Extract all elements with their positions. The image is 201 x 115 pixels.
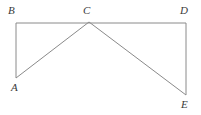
geometry-line-drawing (0, 0, 201, 115)
vertex-label-b: B (8, 5, 15, 16)
vertex-label-c: C (83, 5, 90, 16)
segment-ac (16, 22, 89, 78)
segment-ce (89, 22, 186, 95)
vertex-label-a: A (11, 82, 18, 93)
vertex-label-e: E (181, 99, 188, 110)
vertex-label-d: D (180, 5, 188, 16)
geometry-figure: B C D A E (0, 0, 201, 115)
